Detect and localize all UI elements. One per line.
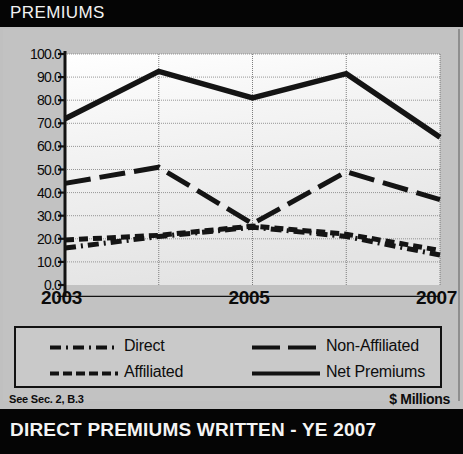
x-axis-tick-labels: 200320052007	[3, 287, 458, 319]
bottom-section-title: DIRECT PREMIUMS WRITTEN - YE 2007	[10, 419, 376, 441]
legend-label-net-premiums: Net Premiums	[326, 363, 425, 381]
y-axis-tick-label: 100.0	[13, 47, 61, 61]
chart-panel: 100.090.080.070.060.050.040.030.020.010.…	[0, 27, 463, 409]
legend-swatch-non-affiliated	[252, 345, 320, 350]
x-axis-tick-label: 2005	[229, 287, 270, 309]
y-axis-tick-labels: 100.090.080.070.060.050.040.030.020.010.…	[3, 29, 61, 297]
legend-label-direct: Direct	[124, 337, 165, 355]
page-title-bar: PREMIUMS	[0, 0, 463, 27]
line-chart: 100.090.080.070.060.050.040.030.020.010.…	[3, 29, 458, 297]
source-reference: See Sec. 2, B.3	[9, 393, 84, 405]
y-axis-tick-label: 40.0	[13, 186, 61, 200]
y-axis-tick-label: 30.0	[13, 209, 61, 223]
y-axis-tick-label: 80.0	[13, 93, 61, 107]
y-axis-tick-label: 90.0	[13, 70, 61, 84]
chart-legend: Direct Non-Affiliated Affiliated	[14, 326, 442, 388]
y-axis-tick-label: 20.0	[13, 232, 61, 246]
legend-label-non-affiliated: Non-Affiliated	[326, 337, 419, 355]
chart-panel-inner: 100.090.080.070.060.050.040.030.020.010.…	[3, 29, 460, 401]
x-axis-tick-label: 2007	[416, 287, 457, 309]
legend-swatch-direct	[50, 345, 118, 350]
legend-label-affiliated: Affiliated	[124, 363, 183, 381]
premiums-chart-page: PREMIUMS 100.090.080.070.060.050.040.030…	[0, 0, 463, 454]
page-title: PREMIUMS	[10, 3, 105, 23]
y-axis-tick-label: 10.0	[13, 255, 61, 269]
units-label: $ Millions	[389, 391, 450, 407]
y-axis-tick-label: 50.0	[13, 163, 61, 177]
y-axis-tick-label: 60.0	[13, 139, 61, 153]
legend-swatch-affiliated	[50, 371, 118, 376]
y-axis-tick-label: 70.0	[13, 116, 61, 130]
chart-plot-area	[3, 29, 458, 297]
x-axis-tick-label: 2003	[41, 287, 82, 309]
legend-swatch-net-premiums	[252, 371, 320, 376]
bottom-section-bar: DIRECT PREMIUMS WRITTEN - YE 2007	[0, 409, 463, 454]
